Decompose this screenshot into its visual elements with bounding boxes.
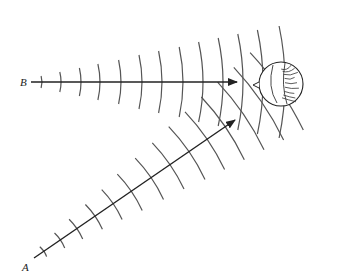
source-label-b: B xyxy=(20,76,27,88)
ray-arrow-a xyxy=(34,120,235,258)
rays xyxy=(31,82,237,258)
wavefront-arc xyxy=(238,34,243,130)
wave-diagram: A B xyxy=(0,0,342,278)
diagram-canvas xyxy=(0,0,342,278)
source-label-a: A xyxy=(22,261,29,273)
